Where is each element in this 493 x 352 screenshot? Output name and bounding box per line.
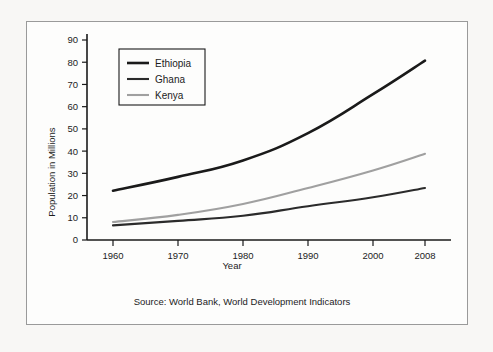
y-tick-label: 30 [67,168,78,179]
y-tick-label: 90 [67,34,78,45]
y-tick-label: 80 [67,57,78,68]
x-tick-label: 1990 [297,250,318,261]
y-axis-title: Population in Millions [46,127,57,216]
chart-svg: 0102030405060708090 19601970198019902000… [27,22,469,326]
y-tick-label: 40 [67,146,78,157]
y-tick-label: 70 [67,79,78,90]
figure-frame: 0102030405060708090 19601970198019902000… [26,21,468,325]
x-tick-label: 1970 [167,250,188,261]
x-tick-label: 2000 [362,250,383,261]
x-axis-title: Year [222,260,241,271]
legend-label-ethiopia[interactable]: Ethiopia [155,58,192,69]
chart-legend[interactable]: EthiopiaGhanaKenya [119,49,205,105]
legend-label-ghana[interactable]: Ghana [155,74,185,85]
y-tick-label: 10 [67,212,78,223]
source-caption: Source: World Bank, World Development In… [134,296,351,307]
x-axis: 196019701980199020002008 [87,240,451,261]
screenshot-page: 0102030405060708090 19601970198019902000… [0,0,493,352]
legend-label-kenya[interactable]: Kenya [155,90,184,101]
series-line-ghana [113,188,425,225]
x-tick-label: 2008 [414,250,435,261]
y-tick-label: 20 [67,190,78,201]
x-tick-label: 1960 [102,250,123,261]
y-tick-label: 60 [67,101,78,112]
y-tick-label: 0 [73,234,78,245]
line-chart: 0102030405060708090 19601970198019902000… [27,22,469,326]
y-tick-label: 50 [67,123,78,134]
y-axis: 0102030405060708090 [67,34,87,245]
